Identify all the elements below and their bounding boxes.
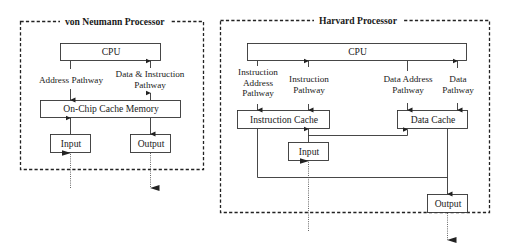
von-neumann-title: von Neumann Processor — [60, 16, 170, 27]
hv-output-label: Output — [428, 195, 468, 212]
vn-data-instruction-pathway-label: Data & Instruction Pathway — [112, 69, 188, 90]
vn-cpu-label: CPU — [61, 44, 161, 60]
hv-data-address-pathway-label: Data Address Pathway — [375, 74, 441, 95]
hv-data-pathway-label: Data Pathway — [437, 74, 479, 95]
hv-iaddr-line3: Pathway — [228, 88, 288, 99]
vn-data-instruction-line1: Data & Instruction — [112, 69, 188, 80]
vn-output-label: Output — [131, 135, 171, 152]
hv-cpu-label: CPU — [248, 44, 467, 60]
harvard-title: Harvard Processor — [314, 15, 402, 26]
hv-instruction-pathway-label: Instruction Pathway — [280, 74, 338, 95]
vn-input-label: Input — [51, 135, 91, 152]
vn-address-pathway-label: Address Pathway — [33, 75, 109, 86]
hv-daddr-line2: Pathway — [375, 85, 441, 96]
vn-data-instruction-line2: Pathway — [112, 80, 188, 91]
hv-instr-line1: Instruction — [280, 74, 338, 85]
hv-input-to-dcache-arrow — [309, 130, 408, 136]
hv-data-line1: Data — [437, 74, 479, 85]
vn-cache-label: On-Chip Cache Memory — [41, 101, 181, 117]
hv-input-label: Input — [289, 143, 329, 160]
hv-icache-to-output-line — [258, 129, 448, 178]
diagram-canvas: von Neumann Processor CPU Address Pathwa… — [0, 0, 505, 248]
hv-daddr-line1: Data Address — [375, 74, 441, 85]
hv-data-cache-label: Data Cache — [398, 111, 468, 128]
hv-iaddr-line2: Address — [228, 78, 288, 89]
hv-instr-line2: Pathway — [280, 85, 338, 96]
hv-iaddr-line1: Instruction — [228, 67, 288, 78]
hv-instruction-cache-label: Instruction Cache — [238, 111, 330, 128]
hv-data-line2: Pathway — [437, 85, 479, 96]
hv-instruction-address-pathway-label: Instruction Address Pathway — [228, 67, 288, 99]
